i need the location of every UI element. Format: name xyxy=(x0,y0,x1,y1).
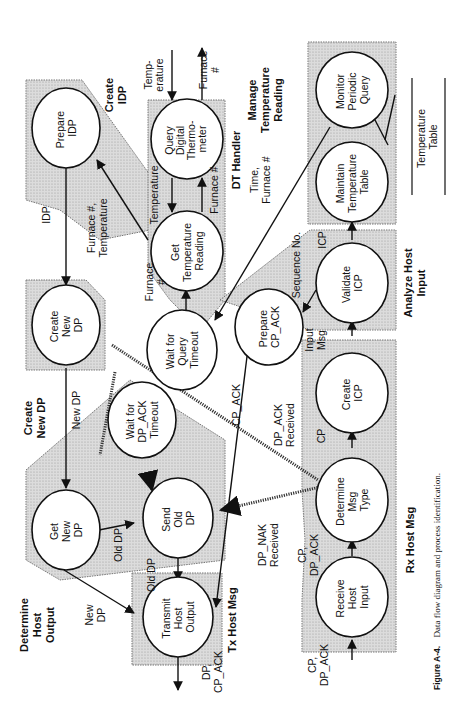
svg-text:CP_ACK: CP_ACK xyxy=(230,384,242,426)
process-create-icp: Create ICP xyxy=(316,353,388,433)
svg-text:ICP: ICP xyxy=(316,231,328,249)
svg-text:Sequence No.: Sequence No. xyxy=(290,232,302,299)
svg-text:DP_NAKReceived: DP_NAKReceived xyxy=(256,523,280,567)
svg-text:CP: CP xyxy=(315,429,327,444)
store-label: Temperature Table xyxy=(415,106,439,168)
process-maintain-temperature-table: Maintain Temperature Table xyxy=(316,142,388,222)
process-wait-for-dp-ack-timeout: Wait for DP_ACK Timeout xyxy=(108,382,176,458)
svg-text:Furnace#: Furnace# xyxy=(197,51,221,90)
group-title-dt-handler: DT Handler xyxy=(230,130,242,189)
svg-text:Temp-erature: Temp-erature xyxy=(142,58,165,91)
group-title-analyze-host-input: Analyze HostInput xyxy=(402,248,427,317)
svg-text:Time,Furnace #: Time,Furnace # xyxy=(248,156,272,203)
process-monitor-periodic-query: Monitor Periodic Query xyxy=(316,52,388,128)
svg-text:Wait for Query Tim: Wait for Query Timeout xyxy=(164,331,200,370)
svg-text:InputMsg: InputMsg xyxy=(303,328,327,351)
process-validate-icp: Validate ICP xyxy=(316,243,388,323)
group-title-determine-host-output: DetermineHostOutput xyxy=(18,598,56,652)
svg-text:Figure A-4. Data flow di: Figure A-4. Data flow diagram and proces… xyxy=(426,473,443,690)
svg-text:Old DP: Old DP xyxy=(145,558,157,592)
svg-text:Furnace #,Temperature: Furnace #,Temperature xyxy=(85,198,109,257)
process-send-old-dp: Send Old DP xyxy=(143,478,213,558)
process-create-new-dp: Create New DP xyxy=(32,285,100,365)
process-prepare-idp: Prepare IDP xyxy=(32,88,100,168)
svg-text:Prepare CP_ACK: Prepare CP_ACK xyxy=(257,306,281,348)
svg-text:CP,DP_ACK: CP,DP_ACK xyxy=(296,534,320,576)
figure-caption: Figure A-4. Data flow diagram and proces… xyxy=(426,473,443,690)
svg-text:Old DP: Old DP xyxy=(112,528,124,562)
group-title-manage-temperature-reading: ManageTemperatureReading xyxy=(246,67,284,133)
group-title-tx-host-msg: Tx Host Msg xyxy=(226,587,238,652)
group-title-rx-host-msg: Rx Host Msg xyxy=(404,507,416,574)
process-receive-host-input: Receive Host Input xyxy=(316,557,388,637)
svg-text:Temperature: Temperature xyxy=(148,165,160,224)
process-wait-for-query-timeout: Wait for Query Timeout xyxy=(147,310,217,390)
svg-text:Furnace #: Furnace # xyxy=(208,166,220,213)
temperature-table-store: Temperature Table xyxy=(412,78,445,195)
group-title-create-new-dp: CreateNew DP xyxy=(22,398,47,439)
process-get-temperature-reading: Get Temperature Reading xyxy=(151,211,223,291)
svg-text:New DP: New DP xyxy=(70,391,82,430)
process-prepare-cp-ack: Prepare CP_ACK xyxy=(235,289,303,365)
svg-text:IDP: IDP xyxy=(40,206,52,224)
group-title-create-idp: CreateIDP xyxy=(103,78,128,112)
svg-text:NewDP: NewDP xyxy=(83,604,107,625)
svg-text:DP_ACKReceived: DP_ACKReceived xyxy=(272,403,296,447)
process-determine-msg-type: Determine Msg Type xyxy=(316,458,388,542)
data-flow-diagram: Temperature Table Prepare IDP Query Digi… xyxy=(0,0,466,706)
svg-text:Wait for DP_ACK Ti: Wait for DP_ACK Timeout xyxy=(124,398,160,443)
process-get-new-dp: Get New DP xyxy=(32,490,100,570)
